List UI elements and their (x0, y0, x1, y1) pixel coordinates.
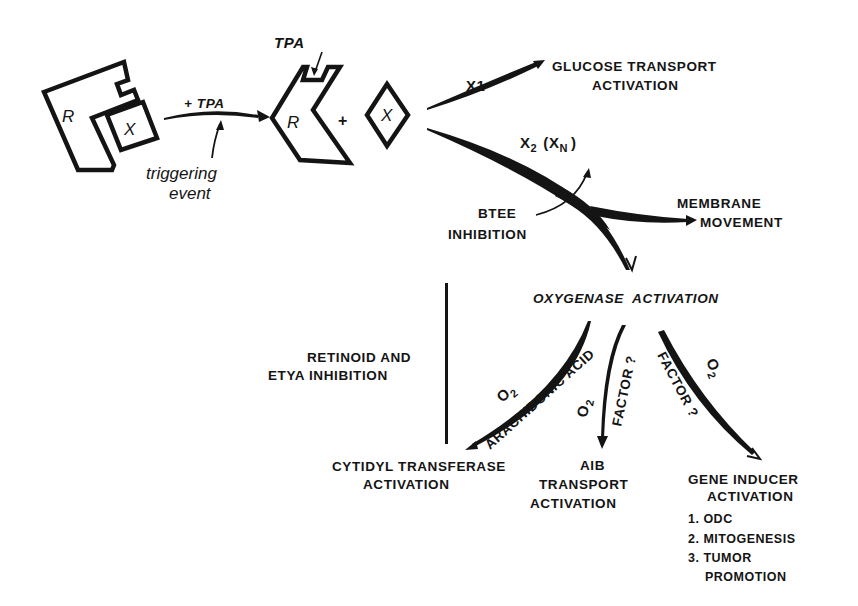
mechanism-diagram: R X + TPA triggering event TPA R + X X1 … (0, 0, 858, 606)
bound-x-label: X (123, 120, 136, 139)
activated-receptor-label: R (287, 113, 299, 132)
btee-line2: INHIBITION (448, 227, 527, 242)
tpa-arrow-shaft (164, 111, 258, 120)
aib-line2: TRANSPORT (539, 477, 629, 492)
glucose-line2: ACTIVATION (592, 78, 679, 93)
gene-line1: GENE INDUCER (688, 472, 799, 487)
tpa-bound-label: TPA (274, 34, 305, 51)
gene-outcome-3: 3. TUMOR (688, 551, 752, 565)
path-gene-inducer: O2 FACTOR ? GENE INDUCER ACTIVATION 1. O… (654, 330, 798, 584)
membrane-branch (590, 206, 688, 223)
x1-label: X1 (466, 77, 486, 94)
btee-pointer-head (583, 168, 591, 178)
receptor-activated: TPA R (272, 34, 350, 163)
tpa-arrow-head (257, 110, 270, 122)
gene-arrow-band (658, 330, 755, 455)
branch-x1: X1 GLUCOSE TRANSPORT ACTIVATION (427, 59, 717, 110)
released-x: X (367, 84, 408, 146)
aib-arrow-head (597, 436, 608, 449)
cytidyl-line1: CYTIDYL TRANSFERASE (332, 459, 506, 474)
tpa-arrow-label: + TPA (184, 96, 225, 111)
oxygenase-title: OXYGENASE ACTIVATION (533, 291, 719, 306)
glucose-line1: GLUCOSE TRANSPORT (552, 59, 717, 74)
gene-outcome-1: 1. ODC (688, 512, 733, 526)
cytidyl-arrow-band (472, 321, 591, 447)
retinoid-line2: ETYA INHIBITION (268, 368, 388, 383)
membrane-line1: MEMBRANE (677, 196, 761, 211)
trigger-note-line2: event (169, 184, 212, 203)
inhibition-bar (445, 283, 448, 444)
trigger-note-line1: triggering (146, 164, 217, 183)
trigger-pointer-head (216, 120, 224, 130)
released-x-label: X (380, 106, 393, 125)
tpa-arrow: + TPA triggering event (146, 96, 270, 203)
plus-sign: + (338, 112, 348, 129)
x2-band-thick (555, 186, 610, 230)
membrane-arrow-head (686, 215, 697, 226)
aib-line3: ACTIVATION (530, 496, 617, 511)
branch-x2: X2(XN) MEMBRANE MOVEMENT BTEE INHIBITION (427, 128, 783, 270)
cytidyl-o2: O2 (493, 380, 520, 408)
gene-line2: ACTIVATION (707, 489, 794, 504)
receptor-shape (44, 62, 138, 170)
aib-line1: AIB (580, 458, 605, 473)
gene-o2: O2 (700, 356, 726, 381)
aib-o2: O2 (573, 397, 596, 419)
path-cytidyl: O2 ARACHIDONIC ACID CYTIDYL TRANSFERASE … (332, 321, 597, 492)
retinoid-line1: RETINOID AND (307, 350, 411, 365)
btee-line1: BTEE (478, 206, 516, 221)
cytidyl-arrow-head (465, 441, 478, 450)
membrane-line2: MOVEMENT (700, 215, 783, 230)
receptor-complex-bound: R X (44, 62, 157, 170)
gene-outcome-2: 2. MITOGENESIS (688, 532, 796, 546)
gene-outcome-3-cont: PROMOTION (705, 570, 787, 584)
cytidyl-line2: ACTIVATION (363, 477, 450, 492)
receptor-label: R (62, 107, 74, 126)
x2-label: X2(XN) (520, 134, 577, 154)
aib-factor-label: FACTOR ? (609, 354, 639, 428)
